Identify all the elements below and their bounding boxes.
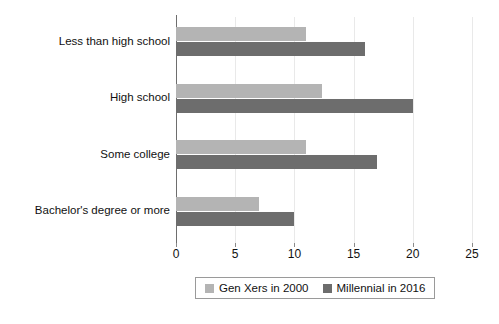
bar <box>176 140 306 154</box>
bar-group <box>176 84 472 113</box>
bar <box>176 99 413 113</box>
category-label: Less than high school <box>2 35 170 47</box>
x-tick-label: 10 <box>288 247 301 261</box>
legend-swatch-millennial <box>323 284 332 293</box>
bar-chart-figure: Less than high schoolHigh schoolSome col… <box>0 0 499 324</box>
x-tick-label: 15 <box>347 247 360 261</box>
bar <box>176 27 306 41</box>
category-label: High school <box>2 91 170 103</box>
x-tick-label: 0 <box>173 247 180 261</box>
x-tick-label: 5 <box>232 247 239 261</box>
legend-item: Millennial in 2016 <box>323 282 426 294</box>
category-label: Bachelor's degree or more <box>2 204 170 216</box>
bar-group <box>176 197 472 226</box>
x-axis-tick-labels: 0510152025 <box>0 247 499 265</box>
bar <box>176 84 322 98</box>
plot-area <box>176 17 472 243</box>
legend-item: Gen Xers in 2000 <box>205 282 309 294</box>
bar <box>176 42 365 56</box>
bar <box>176 155 377 169</box>
gridline <box>472 17 473 243</box>
category-axis-labels: Less than high schoolHigh schoolSome col… <box>0 17 170 243</box>
legend-label: Gen Xers in 2000 <box>219 282 309 294</box>
bar <box>176 197 259 211</box>
chart-legend: Gen Xers in 2000Millennial in 2016 <box>195 277 435 299</box>
x-tick-label: 25 <box>465 247 478 261</box>
legend-swatch-gen-xers <box>205 284 214 293</box>
x-tick-label: 20 <box>406 247 419 261</box>
category-label: Some college <box>2 148 170 160</box>
bar <box>176 212 294 226</box>
bar-group <box>176 140 472 169</box>
legend-label: Millennial in 2016 <box>337 282 426 294</box>
bar-group <box>176 27 472 56</box>
